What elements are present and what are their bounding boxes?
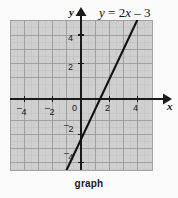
equation-label: y = 2x – 3	[99, 5, 150, 21]
equation-operator: –	[131, 5, 144, 20]
tick-value: 4	[69, 152, 74, 162]
tick-value: 0	[72, 103, 77, 113]
tick-value: 4	[68, 33, 73, 43]
equation-equals: =	[105, 5, 119, 20]
graph-figure: y = 2x – 3 x y –4–202442–2–4 graph	[0, 0, 178, 198]
equation-constant: 3	[144, 5, 151, 20]
tick-value: 4	[22, 107, 27, 117]
tick-value: 2	[50, 107, 55, 117]
tick-label-x-4: 4	[133, 103, 138, 113]
tick-value: 2	[105, 103, 110, 113]
tick-label-x-neg-4: –4	[17, 103, 27, 117]
y-axis-label: y	[69, 6, 74, 18]
tick-label-x-neg-2: –2	[45, 103, 55, 117]
tick-value: 4	[133, 103, 138, 113]
y-axis-arrowhead	[76, 7, 87, 16]
tick-value: 2	[69, 124, 74, 134]
x-axis-label: x	[167, 100, 173, 112]
tick-value: 2	[68, 62, 73, 72]
coordinate-plane	[0, 0, 178, 198]
tick-label-x-0: 0	[72, 103, 77, 113]
tick-label-y-4: 4	[68, 33, 73, 43]
tick-label-y-neg-2: –2	[64, 120, 74, 134]
tick-label-y-2: 2	[68, 62, 73, 72]
tick-label-x-2: 2	[105, 103, 110, 113]
tick-label-y-neg-4: –4	[64, 148, 74, 162]
figure-caption: graph	[0, 178, 178, 189]
